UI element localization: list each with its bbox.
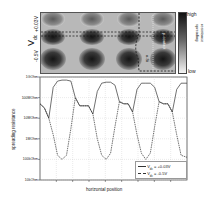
resistance-map: n-Si p-contact [40, 12, 176, 74]
region-label-n-si: n-Si [145, 55, 150, 62]
legend-value: = +0.03V [153, 164, 170, 169]
legend-value: = -0.5V [153, 171, 167, 176]
vdc-label-v: V [26, 40, 36, 46]
legend-item-pos: Vdc = +0.03V [138, 164, 170, 171]
region-label-p-contact: p-contact [162, 33, 167, 49]
y-axis-label: spreading resistance [11, 108, 16, 150]
y-tick-label: 10kOhm [16, 178, 38, 182]
row-label-top: +0.03V [33, 16, 39, 32]
legend: Vdc = +0.03V Vdc = -0.5V [135, 161, 187, 179]
resistance-chart: spreading resistance horizontal position… [0, 72, 210, 199]
vdc-label-sub: dc [32, 35, 38, 40]
row-label-bottom: -0.5V [33, 50, 39, 62]
legend-line-dashed [138, 173, 146, 174]
y-tick-label: 1GOhm [16, 75, 38, 79]
colorbar-title-2: resistance [200, 24, 205, 42]
resistance-map-image [41, 13, 175, 73]
legend-line-solid [138, 166, 146, 167]
y-tick-label: 100kOhm [16, 157, 38, 161]
colorbar-high-label: high [187, 11, 196, 17]
vdc-axis-label: Vdc [26, 35, 38, 46]
y-tick-label: 10MOhm [16, 116, 38, 120]
y-tick-label: 1MOhm [16, 137, 38, 141]
x-axis-label: horizontal position [86, 187, 122, 192]
legend-item-neg: Vdc = -0.5V [138, 171, 167, 178]
colorbar [178, 12, 187, 74]
y-tick-label: 100MOhm [16, 96, 38, 100]
